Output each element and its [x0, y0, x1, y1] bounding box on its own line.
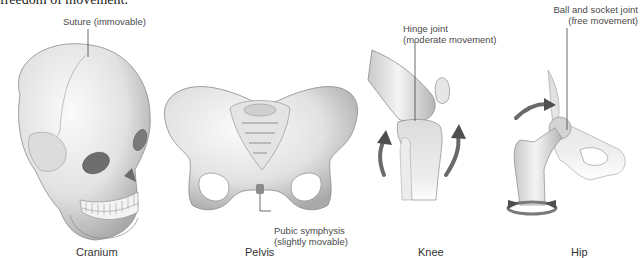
cranium-illustration [18, 29, 150, 240]
pelvis-illustration [164, 87, 357, 211]
pubic-symphysis-label-line1: Pubic symphysis [274, 225, 348, 236]
pubic-symphysis-label-line2: (slightly movable) [274, 236, 348, 247]
ball-socket-label: Ball and socket joint (free movement) [554, 4, 639, 26]
caption-knee: Knee [418, 246, 444, 258]
caption-pelvis: Pelvis [245, 246, 274, 258]
suture-label: Suture (immovable) [63, 16, 146, 27]
knee-illustration [368, 42, 466, 200]
joint-illustrations [0, 0, 641, 258]
caption-hip: Hip [571, 246, 588, 258]
hip-illustration [508, 28, 625, 214]
ball-socket-label-line1: Ball and socket joint [554, 4, 639, 15]
pubic-symphysis-label: Pubic symphysis (slightly movable) [274, 225, 348, 247]
ball-socket-label-line2: (free movement) [554, 15, 639, 26]
hinge-joint-label-line2: (moderate movement) [403, 34, 496, 45]
caption-cranium: Cranium [76, 246, 118, 258]
hinge-joint-label-line1: Hinge joint [403, 23, 496, 34]
hinge-joint-label: Hinge joint (moderate movement) [403, 23, 496, 45]
